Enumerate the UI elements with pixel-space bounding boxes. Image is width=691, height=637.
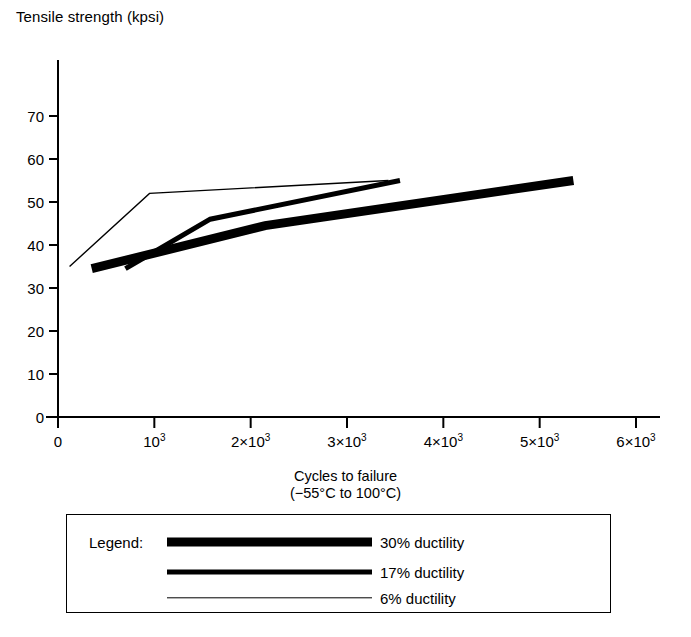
legend: Legend: 30% ductility17% ductility6% duc… — [66, 514, 611, 613]
legend-row: 6% ductility — [67, 585, 610, 611]
legend-label: 17% ductility — [380, 564, 464, 581]
x-axis-title: Cycles to failure (−55°C to 100°C) — [0, 468, 691, 502]
legend-swatch-cell — [167, 529, 372, 555]
legend-label: 30% ductility — [380, 534, 464, 551]
legend-swatch-cell — [167, 585, 372, 611]
y-tick-label: 10 — [27, 366, 44, 383]
y-tick-label: 50 — [27, 194, 44, 211]
x-tick-label: 5×103 — [520, 432, 560, 450]
y-tick-label: 60 — [27, 151, 44, 168]
chart-page: Tensile strength (kpsi) 0102030405060700… — [0, 0, 691, 637]
legend-row: 17% ductility — [67, 559, 610, 585]
x-tick-label: 3×103 — [327, 432, 367, 450]
legend-swatch — [167, 597, 372, 598]
plot-area: 01020304050607001032×1033×1034×1035×1036… — [0, 0, 691, 470]
legend-swatch-cell — [167, 559, 372, 585]
x-tick-label: 6×103 — [616, 432, 656, 450]
y-tick-label: 70 — [27, 108, 44, 125]
x-axis-title-line1: Cycles to failure — [0, 468, 691, 485]
legend-swatch — [167, 538, 372, 547]
y-tick-label: 30 — [27, 280, 44, 297]
legend-label: 6% ductility — [380, 590, 456, 607]
y-tick-label: 40 — [27, 237, 44, 254]
x-tick-label: 0 — [54, 433, 62, 450]
y-tick-label: 20 — [27, 323, 44, 340]
x-axis-title-line2: (−55°C to 100°C) — [0, 485, 691, 502]
legend-row: 30% ductility — [67, 529, 610, 555]
x-tick-label: 2×103 — [231, 432, 271, 450]
legend-swatch — [167, 570, 372, 575]
y-tick-label: 0 — [36, 409, 44, 426]
x-tick-label: 4×103 — [424, 432, 464, 450]
x-tick-label: 103 — [143, 432, 166, 450]
